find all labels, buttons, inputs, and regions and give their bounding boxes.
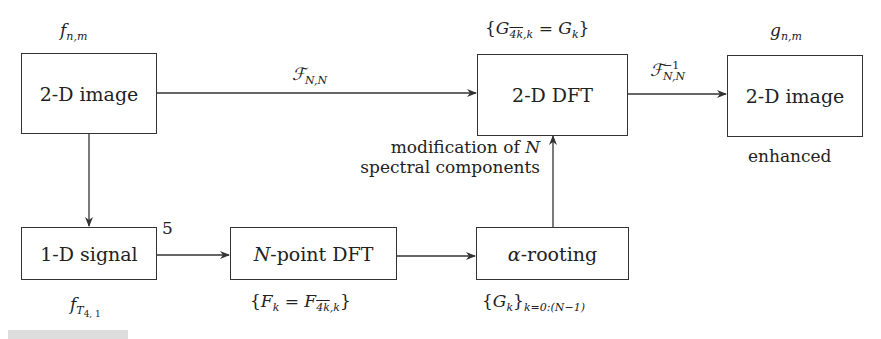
box-2d-dft: 2-D DFT bbox=[477, 54, 628, 136]
box-label: N-point DFT bbox=[254, 243, 374, 265]
label-modification: modification of N spectral components bbox=[360, 137, 540, 177]
box-label: 1-D signal bbox=[40, 243, 137, 265]
box-2d-image-output: 2-D image bbox=[727, 55, 863, 137]
label-g-nm: gn,m bbox=[770, 22, 802, 42]
box-npoint-dft: N-point DFT bbox=[230, 227, 397, 280]
box-1d-signal: 1-D signal bbox=[21, 227, 157, 280]
box-label: 2-D DFT bbox=[512, 84, 593, 106]
box-label: 2-D image bbox=[40, 83, 139, 105]
label-f-nm: fn,m bbox=[60, 22, 87, 42]
label-five: 5 bbox=[162, 220, 173, 237]
label-gk-range: {Gk}k=0:(N−1) bbox=[482, 293, 585, 313]
box-label: 2-D image bbox=[746, 85, 845, 107]
box-2d-image-input: 2-D image bbox=[21, 53, 157, 134]
label-enhanced: enhanced bbox=[748, 148, 832, 165]
box-alpha-rooting: α-rooting bbox=[476, 227, 629, 280]
label-inverse-fourier-nn: ℱ−1N,N bbox=[650, 60, 685, 82]
caption-fragment bbox=[8, 330, 128, 339]
box-label: α-rooting bbox=[508, 243, 597, 265]
label-f-set: {Fk = F4k,k} bbox=[250, 293, 351, 313]
label-fourier-nn: ℱN,N bbox=[292, 66, 327, 86]
label-g-set: {G4k,k = Gk} bbox=[485, 20, 589, 40]
label-f-t41: fT4, 1 bbox=[70, 296, 101, 320]
